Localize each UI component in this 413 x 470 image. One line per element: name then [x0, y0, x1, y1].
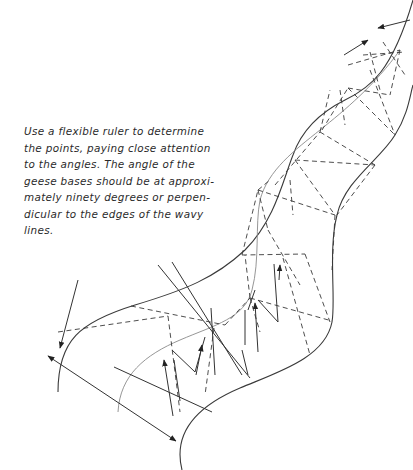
wavy-edge-right [180, 85, 413, 470]
center-line [118, 50, 400, 412]
dashed-triangles [58, 42, 405, 412]
wavy-edge-left [58, 0, 413, 392]
ruler-measure-arrow [48, 280, 176, 441]
direction-arrows [164, 20, 410, 416]
perpendicular-guides [114, 262, 250, 412]
wavy-geese-diagram [0, 0, 413, 470]
